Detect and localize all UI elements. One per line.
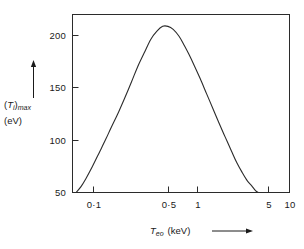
x-axis-label-units: (keV) [168, 225, 191, 236]
x-tick-label-0-1: 0·1 [79, 199, 109, 210]
y-tick-label-200: 200 [40, 30, 66, 41]
figure-container: 200 150 100 50 0·1 0·5 1 5 10 (Ti)max (e… [0, 0, 304, 249]
x-axis-ticks [94, 187, 269, 193]
y-tick-label-150: 150 [40, 82, 66, 93]
y-axis-label-units: (eV) [4, 114, 66, 127]
y-tick-label-50: 50 [40, 187, 66, 198]
y-axis-label-line1: (Ti)max [4, 98, 66, 114]
x-axis-label-symbol-sub: eo [156, 230, 164, 237]
y-axis-ticks [73, 36, 79, 141]
x-tick-label-1: 1 [184, 199, 212, 210]
x-tick-label-0-5: 0·5 [154, 199, 184, 210]
right-arrow-icon [212, 225, 256, 237]
y-axis-label: (Ti)max (eV) [4, 98, 66, 127]
up-arrow-icon [31, 60, 36, 98]
x-axis-label: Teo(keV) [150, 225, 190, 237]
y-tick-label-100: 100 [40, 135, 66, 146]
data-curve [76, 26, 258, 193]
plot-frame [73, 15, 290, 193]
x-tick-label-10: 10 [276, 199, 304, 210]
y-axis-label-max-sub: max [18, 104, 31, 111]
